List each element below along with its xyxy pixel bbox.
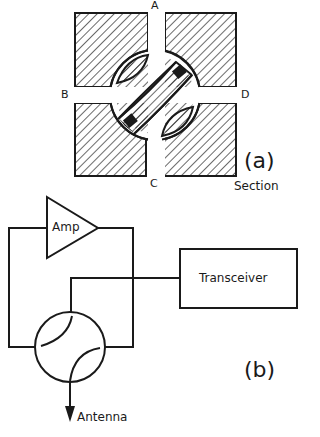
port-label-c: C (150, 178, 158, 189)
waveguide-section (70, 10, 240, 180)
port-label-d: D (241, 89, 249, 100)
antenna-label: Antenna (77, 411, 127, 423)
transceiver-label: Transceiver (199, 272, 267, 284)
port-label-a: A (151, 0, 159, 11)
wire-amp-output (98, 228, 133, 347)
port-label-b: B (61, 89, 69, 100)
figure-a-label: (a) (244, 150, 275, 172)
amplifier-label: Amp (52, 221, 80, 233)
wire-transceiver (71, 278, 180, 312)
figure-a-caption: Section (234, 180, 279, 192)
antenna-arrow-icon (65, 406, 75, 422)
figure-b-label: (b) (244, 359, 275, 381)
